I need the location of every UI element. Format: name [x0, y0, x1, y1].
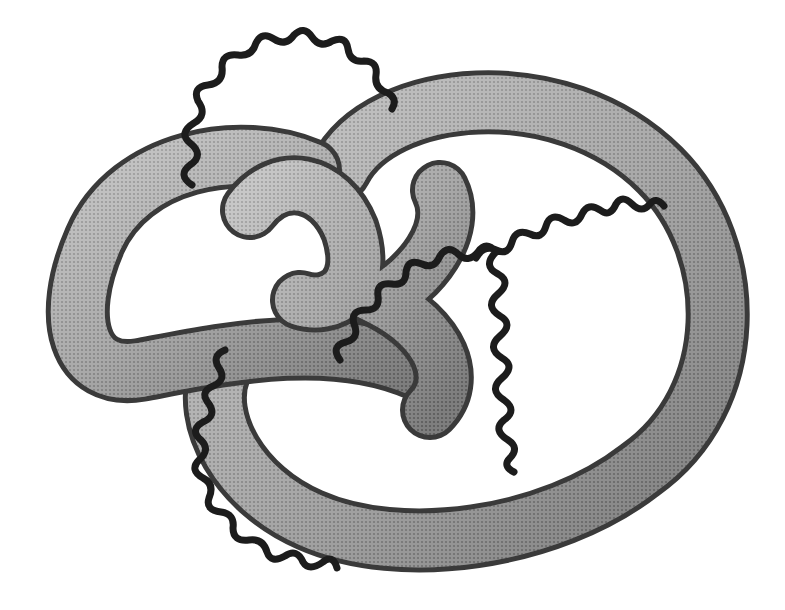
knotted-tube — [78, 102, 718, 540]
knot-diagram — [0, 0, 785, 610]
